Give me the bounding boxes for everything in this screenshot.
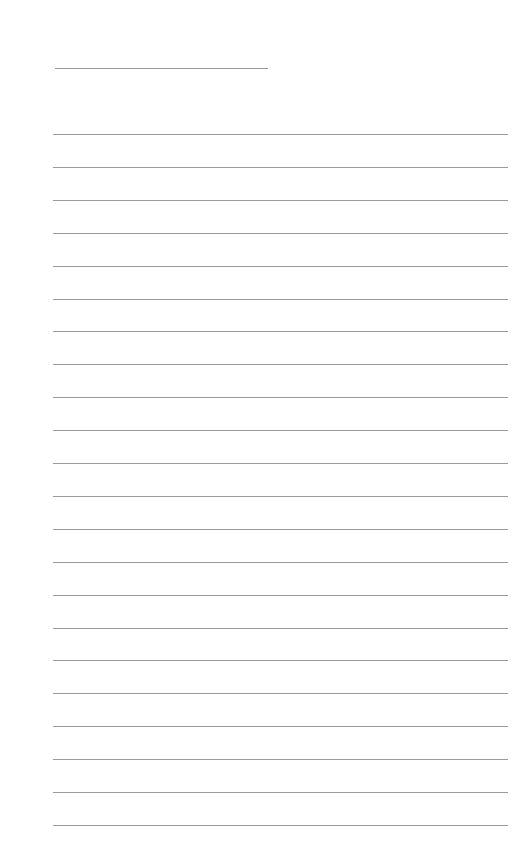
ruled-line <box>53 299 508 300</box>
ruled-line <box>53 529 508 530</box>
ruled-line <box>53 397 508 398</box>
ruled-line <box>53 496 508 497</box>
ruled-line <box>53 595 508 596</box>
ruled-line <box>53 134 508 135</box>
ruled-line <box>53 233 508 234</box>
ruled-line <box>53 562 508 563</box>
ruled-line <box>53 628 508 629</box>
ruled-line <box>53 660 508 661</box>
ruled-line <box>53 364 508 365</box>
ruled-line <box>53 266 508 267</box>
ruled-line <box>53 759 508 760</box>
ruled-line <box>53 430 508 431</box>
ruled-line <box>53 825 508 826</box>
ruled-line <box>53 792 508 793</box>
title-line <box>55 68 268 69</box>
ruled-line <box>53 693 508 694</box>
ruled-line <box>53 167 508 168</box>
ruled-line <box>53 331 508 332</box>
ruled-line <box>53 726 508 727</box>
ruled-line <box>53 200 508 201</box>
ruled-line <box>53 463 508 464</box>
